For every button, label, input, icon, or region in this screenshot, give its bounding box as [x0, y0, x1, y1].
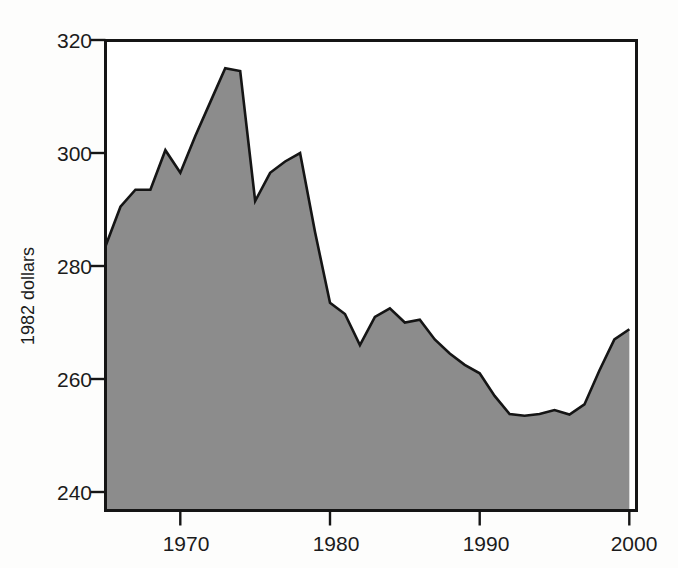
- y-tick-label-260: 260: [57, 368, 92, 391]
- area-chart: 320 300 280 260 240 1970 1980 1990 2000 …: [0, 0, 678, 568]
- chart-container: 320 300 280 260 240 1970 1980 1990 2000 …: [0, 0, 678, 568]
- y-tick-label-300: 300: [57, 142, 92, 165]
- x-axis-ticks: [180, 511, 629, 526]
- x-tick-label-1970: 1970: [163, 532, 210, 555]
- y-tick-label-280: 280: [57, 255, 92, 278]
- x-tick-label-2000: 2000: [611, 532, 658, 555]
- x-tick-label-1990: 1990: [463, 532, 510, 555]
- y-axis-ticks: [91, 40, 106, 492]
- y-tick-label-240: 240: [57, 481, 92, 504]
- y-tick-label-320: 320: [57, 29, 92, 52]
- x-tick-label-1980: 1980: [313, 532, 360, 555]
- y-axis-title: 1982 dollars: [18, 247, 38, 345]
